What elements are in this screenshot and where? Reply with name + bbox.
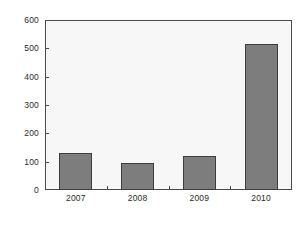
x-tick-label: 2010 bbox=[251, 194, 271, 203]
x-tick-mark bbox=[107, 186, 108, 190]
bar bbox=[59, 153, 92, 190]
x-tick-mark bbox=[169, 186, 170, 190]
x-tick-label: 2007 bbox=[66, 194, 86, 203]
x-tick-mark bbox=[230, 186, 231, 190]
x-tick-label: 2009 bbox=[190, 194, 210, 203]
x-tick-label: 2008 bbox=[128, 194, 148, 203]
bar bbox=[183, 156, 216, 190]
bar bbox=[245, 44, 278, 190]
bar-chart: 0100200300400500600 2007200820092010 bbox=[0, 0, 308, 226]
x-axis: 2007200820092010 bbox=[45, 194, 292, 210]
bar bbox=[121, 163, 154, 190]
